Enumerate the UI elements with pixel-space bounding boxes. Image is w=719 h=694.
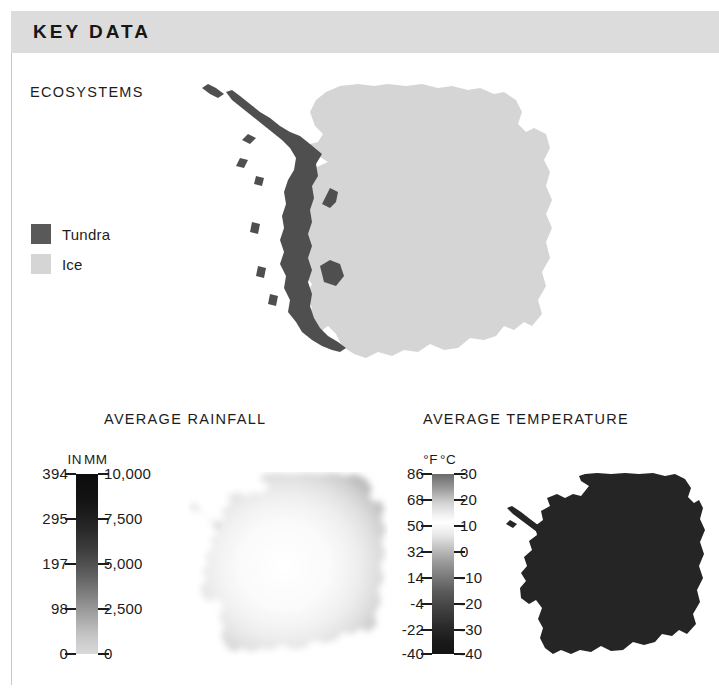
temperature-tick-c-minus40: -40 (460, 645, 482, 662)
temperature-landmass (506, 473, 705, 654)
legend-item-ice: Ice (31, 251, 110, 277)
page-title: KEY DATA (33, 22, 151, 42)
temperature-colorbar: °F °C 86 30 68 20 50 10 (388, 452, 516, 660)
antarctica-rainfall-map (188, 472, 388, 662)
temperature-tick-dash-left (421, 473, 432, 475)
rainfall-colorbar-body: 394 10,000 295 7,500 197 5,000 98 (32, 474, 160, 660)
temperature-tick-dash-left (421, 577, 432, 579)
rainfall-tick-mm-2500: 2,500 (104, 600, 143, 617)
temperature-unit-c: °C (440, 452, 456, 467)
temperature-tick-c-minus10: -10 (460, 569, 482, 586)
rainfall-landmass (190, 473, 386, 652)
legend-swatch-ice (31, 254, 51, 274)
temperature-unit-f: °F (423, 452, 438, 467)
legend-item-tundra: Tundra (31, 221, 110, 247)
antarctica-temperature-map (505, 472, 710, 664)
rainfall-tick-dash-left (65, 608, 76, 610)
rainfall-colorbar: IN MM 394 10,000 295 7,500 197 5,000 (32, 452, 160, 660)
temperature-tick-c-0: 0 (460, 543, 469, 560)
temperature-tick-dash-left (421, 551, 432, 553)
rainfall-tick-mm-0: 0 (104, 645, 113, 662)
rainfall-tick-mm-7500: 7,500 (104, 510, 143, 527)
temperature-tick-dash-left (421, 603, 432, 605)
section-title-temperature: AVERAGE TEMPERATURE (423, 411, 629, 427)
temperature-tick-c-minus30: -30 (460, 621, 482, 638)
rainfall-gradient-bar (76, 474, 98, 654)
section-title-ecosystems: ECOSYSTEMS (30, 84, 144, 100)
temperature-tick-dash-left (421, 525, 432, 527)
temperature-tick-c-20: 20 (460, 491, 477, 508)
key-data-page: KEY DATA ECOSYSTEMS Tundra Ice (0, 0, 719, 694)
rainfall-tick-dash-left (65, 518, 76, 520)
section-title-rainfall: AVERAGE RAINFALL (104, 411, 266, 427)
temperature-tick-c-10: 10 (460, 517, 477, 534)
temperature-tick-dash-left (421, 653, 432, 655)
temperature-tick-dash-left (421, 629, 432, 631)
legend-swatch-tundra (31, 224, 51, 244)
ecosystems-legend: Tundra Ice (31, 221, 110, 281)
temperature-colorbar-body: 86 30 68 20 50 10 32 0 (388, 474, 516, 660)
temperature-tick-c-minus20: -20 (460, 595, 482, 612)
temperature-gradient-bar (432, 474, 454, 654)
rainfall-tick-dash-left (65, 563, 76, 565)
legend-label-ice: Ice (62, 256, 83, 273)
rainfall-tick-dash-left (65, 653, 76, 655)
rainfall-tick-dash-left (65, 473, 76, 475)
rainfall-tick-mm-10000: 10,000 (104, 465, 151, 482)
ice-landmass (284, 84, 552, 358)
rainfall-tick-mm-5000: 5,000 (104, 555, 143, 572)
temperature-tick-c-30: 30 (460, 465, 477, 482)
rainfall-unit-in: IN (68, 452, 83, 467)
legend-label-tundra: Tundra (62, 226, 110, 243)
left-border-rule (11, 30, 12, 685)
antarctica-ecosystems-map (160, 82, 565, 387)
temperature-tick-dash-left (421, 499, 432, 501)
